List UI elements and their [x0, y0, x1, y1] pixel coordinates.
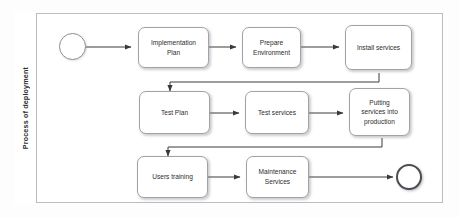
- task-users-training[interactable]: Users training: [137, 156, 208, 198]
- task-install-services[interactable]: Install services: [345, 25, 412, 70]
- task-putting-services-into-production[interactable]: Putting services into production: [349, 88, 410, 136]
- task-label: Implementation Plan: [151, 38, 196, 57]
- task-test-plan[interactable]: Test Plan: [139, 91, 210, 134]
- task-label: Putting services into production: [361, 98, 398, 127]
- task-label: Users training: [152, 172, 193, 182]
- task-test-services[interactable]: Test services: [245, 91, 309, 134]
- start-event[interactable]: [59, 33, 86, 60]
- end-event[interactable]: [396, 164, 422, 190]
- task-label: Test services: [258, 108, 296, 118]
- task-label: Test Plan: [161, 108, 188, 118]
- lane-title: Process of deployment: [21, 67, 30, 149]
- task-maintenance-services[interactable]: Maintenance Services: [246, 156, 309, 198]
- task-label: Maintenance Services: [259, 167, 297, 186]
- task-label: Prepare Environment: [253, 38, 290, 57]
- task-implementation-plan[interactable]: Implementation Plan: [138, 27, 209, 68]
- process-diagram: Process of deployment: [0, 0, 459, 218]
- task-prepare-environment[interactable]: Prepare Environment: [242, 27, 301, 68]
- lane-header: Process of deployment: [14, 13, 37, 203]
- task-label: Install services: [357, 43, 400, 53]
